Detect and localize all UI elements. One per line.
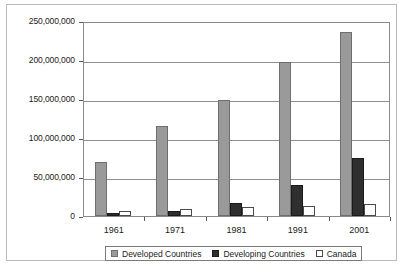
x-tick-mark bbox=[144, 217, 145, 221]
bar-1961-series1 bbox=[107, 213, 119, 216]
bar-1961-series2 bbox=[119, 211, 131, 216]
legend-item[interactable]: Canada bbox=[316, 249, 357, 259]
x-tick-mark bbox=[329, 217, 330, 221]
bar-1991-series0 bbox=[279, 62, 291, 216]
x-tick-label-1981: 1981 bbox=[206, 225, 267, 235]
legend-swatch-icon bbox=[111, 250, 118, 257]
x-tick-mark bbox=[267, 217, 268, 221]
bar-1961-series0 bbox=[95, 162, 107, 216]
bar-1991-series2 bbox=[303, 206, 315, 216]
x-tick-mark bbox=[206, 217, 207, 221]
x-tick-label-1991: 1991 bbox=[267, 225, 328, 235]
bar-1971-series0 bbox=[156, 126, 168, 216]
bar-1971-series2 bbox=[180, 209, 192, 216]
bar-1981-series2 bbox=[242, 207, 254, 216]
bar-1981-series0 bbox=[218, 100, 230, 216]
y-tick-label: 200,000,000 bbox=[7, 55, 75, 65]
y-tick-label: 150,000,000 bbox=[7, 94, 75, 104]
chart-frame: 250,000,000200,000,000150,000,000100,000… bbox=[6, 4, 397, 261]
legend-swatch-icon bbox=[316, 250, 323, 257]
y-tick-mark bbox=[79, 217, 83, 218]
y-tick-label: 50,000,000 bbox=[7, 172, 75, 182]
y-tick-label: 100,000,000 bbox=[7, 133, 75, 143]
legend-label: Developing Countries bbox=[223, 249, 304, 259]
legend-item[interactable]: Developed Countries bbox=[111, 249, 201, 259]
legend-item[interactable]: Developing Countries bbox=[212, 249, 304, 259]
legend-label: Canada bbox=[327, 249, 357, 259]
y-tick-label: 250,000,000 bbox=[7, 16, 75, 26]
bar-1981-series1 bbox=[230, 203, 242, 216]
legend-label: Developed Countries bbox=[122, 249, 201, 259]
plot-area bbox=[83, 22, 390, 217]
bar-1991-series1 bbox=[291, 185, 303, 216]
x-tick-label-2001: 2001 bbox=[329, 225, 390, 235]
x-tick-label-1971: 1971 bbox=[144, 225, 205, 235]
bar-2001-series2 bbox=[364, 204, 376, 216]
chart-legend: Developed CountriesDeveloping CountriesC… bbox=[105, 246, 362, 261]
bar-2001-series1 bbox=[352, 158, 364, 216]
y-tick-label: 0 bbox=[7, 211, 75, 221]
x-tick-label-1961: 1961 bbox=[83, 225, 144, 235]
x-tick-mark bbox=[390, 217, 391, 221]
bar-1971-series1 bbox=[168, 211, 180, 216]
legend-swatch-icon bbox=[212, 250, 219, 257]
bar-2001-series0 bbox=[340, 32, 352, 216]
